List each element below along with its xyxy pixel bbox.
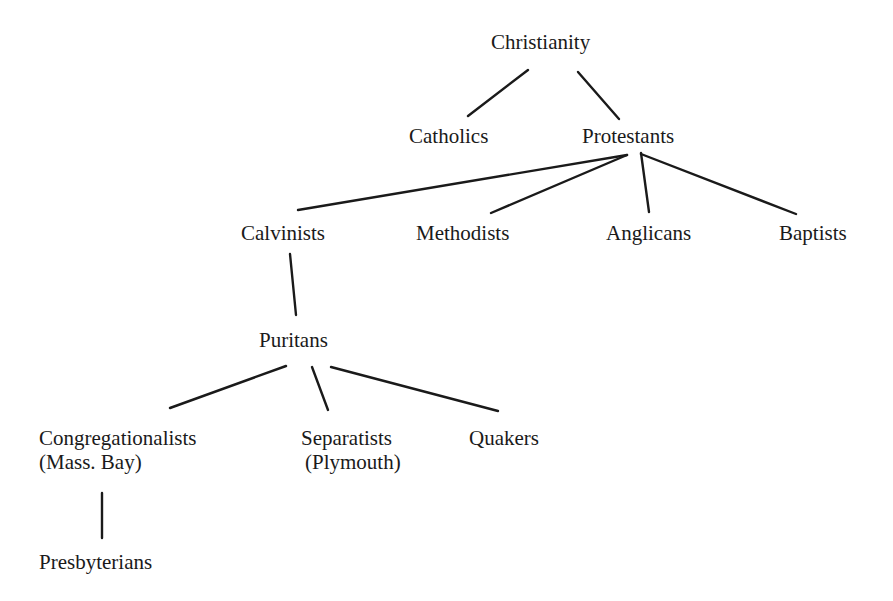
edge-puritans-congregationalists — [170, 366, 286, 408]
node-catholics: Catholics — [409, 124, 488, 148]
denomination-tree-diagram: Christianity Catholics Protestants Calvi… — [0, 0, 893, 601]
edge-puritans-quakers — [331, 367, 498, 411]
edge-protestants-methodists — [491, 155, 627, 213]
edge-protestants-anglicans — [641, 153, 649, 212]
edge-protestants-calvinists — [298, 155, 627, 210]
node-separatists-label: Separatists — [301, 426, 401, 450]
node-methodists: Methodists — [416, 221, 509, 245]
node-separatists: Separatists (Plymouth) — [301, 426, 401, 474]
node-baptists: Baptists — [779, 221, 847, 245]
node-congregationalists: Congregationalists (Mass. Bay) — [39, 426, 196, 474]
node-anglicans: Anglicans — [606, 221, 691, 245]
node-quakers: Quakers — [469, 426, 539, 450]
node-separatists-sublabel: (Plymouth) — [301, 450, 401, 474]
edge-christianity-protestants — [578, 72, 619, 119]
tree-edges — [0, 0, 893, 601]
node-puritans: Puritans — [259, 328, 328, 352]
edge-puritans-separatists — [312, 367, 328, 410]
edge-protestants-baptists — [641, 154, 796, 214]
node-calvinists: Calvinists — [241, 221, 325, 245]
node-christianity: Christianity — [491, 30, 590, 54]
edge-calvinists-puritans — [290, 254, 296, 315]
node-congregationalists-sublabel: (Mass. Bay) — [39, 450, 196, 474]
node-protestants: Protestants — [582, 124, 674, 148]
node-presbyterians: Presbyterians — [39, 550, 152, 574]
node-congregationalists-label: Congregationalists — [39, 426, 196, 450]
edge-christianity-catholics — [468, 70, 528, 116]
